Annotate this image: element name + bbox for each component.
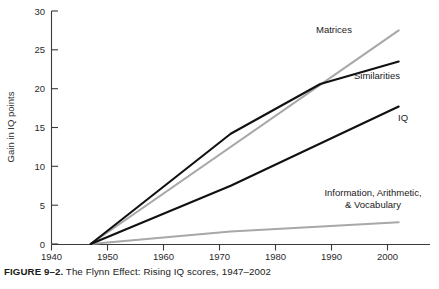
series-line-similarities: [91, 61, 399, 244]
x-tick-label: 1950: [97, 251, 118, 262]
y-axis-ticks: [52, 11, 59, 244]
series-label-information-line2: & Vocabulary: [345, 199, 401, 210]
chart-plot-area: 30 25 20 15 10 5 0 1940 1950: [0, 0, 439, 262]
y-tick-label: 30: [34, 6, 45, 17]
x-tick-label: 2000: [377, 251, 398, 262]
y-axis-title: Gain in IQ points: [5, 91, 16, 162]
series-line-matrices: [91, 30, 399, 244]
series-label-information-line1: Information, Arithmetic,: [324, 187, 421, 198]
y-tick-label: 25: [34, 44, 45, 55]
x-tick-label: 1970: [209, 251, 230, 262]
flynn-effect-line-chart: 30 25 20 15 10 5 0 1940 1950: [0, 0, 439, 262]
y-tick-label: 5: [40, 200, 45, 211]
figure-caption: FIGURE 9–2. The Flynn Effect: Rising IQ …: [4, 266, 434, 277]
y-tick-label: 0: [40, 239, 45, 250]
y-tick-label: 20: [34, 83, 45, 94]
x-tick-label: 1960: [153, 251, 174, 262]
figure-caption-label: FIGURE 9–2.: [4, 266, 63, 277]
figure-caption-text: The Flynn Effect: Rising IQ scores, 1947…: [63, 266, 271, 277]
series-label-matrices: Matrices: [316, 24, 352, 35]
x-tick-label: 1940: [41, 251, 62, 262]
y-tick-label: 15: [34, 122, 45, 133]
series-line-iq: [91, 107, 399, 244]
x-axis-tick-labels: 1940 1950 1960 1970 1980 1990 2000: [41, 251, 398, 262]
x-tick-label: 1980: [265, 251, 286, 262]
series-label-iq: IQ: [398, 112, 408, 123]
y-axis-tick-labels: 30 25 20 15 10 5 0: [34, 6, 45, 250]
x-axis-ticks: [52, 245, 388, 251]
series-label-similarities: Similarities: [354, 70, 400, 81]
x-tick-label: 1990: [321, 251, 342, 262]
y-tick-label: 10: [34, 161, 45, 172]
figure-container: 30 25 20 15 10 5 0 1940 1950: [0, 0, 439, 289]
